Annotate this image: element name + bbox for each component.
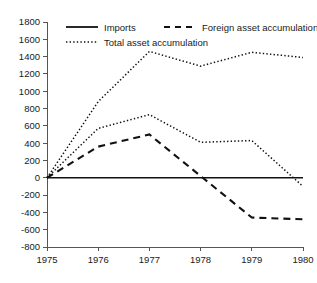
y-axis-tick-label: 1400 bbox=[19, 51, 40, 62]
y-axis-tick-label: -400 bbox=[21, 207, 40, 218]
y-axis-label-group: 180016001400120010008006004002000-200-40… bbox=[19, 16, 40, 252]
data-series-group bbox=[47, 51, 303, 219]
y-axis-tick-label: -200 bbox=[21, 189, 40, 200]
series-line-unlabeled-3 bbox=[47, 115, 303, 187]
legend-label-imports: Imports bbox=[104, 22, 136, 33]
chart-legend: ImportsForeign asset accumulationTotal a… bbox=[66, 22, 317, 48]
line-chart: 180016001400120010008006004002000-200-40… bbox=[0, 0, 317, 283]
x-axis-tick-label: 1975 bbox=[36, 254, 57, 265]
y-axis-tick-label: 200 bbox=[24, 155, 40, 166]
chart-container: 180016001400120010008006004002000-200-40… bbox=[0, 0, 317, 283]
x-axis-tick-label: 1980 bbox=[292, 254, 313, 265]
y-axis-tick-label: -600 bbox=[21, 224, 40, 235]
y-axis-tick-label: 1800 bbox=[19, 16, 40, 27]
x-axis-tick-label: 1977 bbox=[139, 254, 160, 265]
x-axis-label-group: 197519761977197819791980 bbox=[36, 254, 313, 265]
x-axis-tick-label: 1976 bbox=[88, 254, 109, 265]
y-axis-tick-label: 1600 bbox=[19, 34, 40, 45]
series-line-foreign-asset-accumulation bbox=[47, 135, 303, 220]
x-axis-tick-group bbox=[47, 247, 303, 251]
y-axis-tick-label: 400 bbox=[24, 138, 40, 149]
y-axis-tick-label: 800 bbox=[24, 103, 40, 114]
y-axis-tick-label: 1000 bbox=[19, 86, 40, 97]
series-line-total-asset-accumulation bbox=[47, 51, 303, 177]
y-axis-tick-group bbox=[43, 22, 47, 247]
y-axis-tick-label: -800 bbox=[21, 241, 40, 252]
legend-label-total-asset-accumulation: Total asset accumulation bbox=[104, 37, 208, 48]
x-axis-tick-label: 1979 bbox=[241, 254, 262, 265]
x-axis-tick-label: 1978 bbox=[190, 254, 211, 265]
y-axis-tick-label: 0 bbox=[35, 172, 40, 183]
y-axis-tick-label: 600 bbox=[24, 120, 40, 131]
y-axis-tick-label: 1200 bbox=[19, 68, 40, 79]
legend-label-foreign-asset-accumulation: Foreign asset accumulation bbox=[202, 22, 317, 33]
